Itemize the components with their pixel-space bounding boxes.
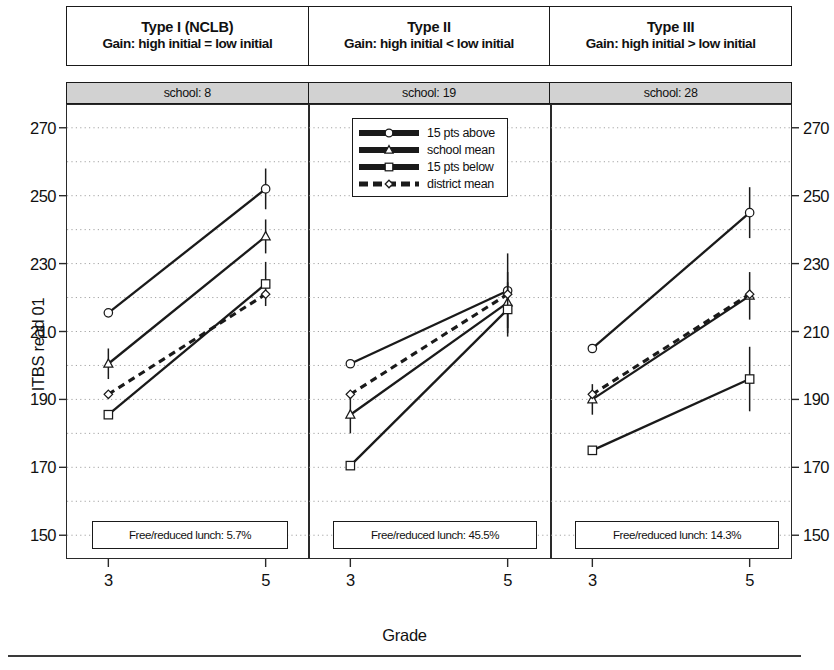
- legend-label-0: 15 pts above: [427, 126, 495, 140]
- legend-entry-1: school mean: [358, 141, 502, 158]
- type-cell-2: Type II Gain: high initial < low initial: [309, 7, 551, 65]
- legend-entry-3: district mean: [358, 175, 502, 192]
- type-cell-3: Type III Gain: high initial > low initia…: [550, 7, 791, 65]
- panel-divider-1: [308, 104, 310, 559]
- legend-entry-2: 15 pts below: [358, 158, 502, 175]
- legend-key-diamond-dashed-icon: [358, 177, 420, 191]
- type-subtitle-2: Gain: high initial < low initial: [344, 36, 514, 53]
- school-label-1: school: 8: [67, 83, 309, 103]
- x-tick-label: 3: [588, 571, 597, 590]
- legend-key-square-icon: [358, 160, 420, 174]
- legend-label-3: district mean: [427, 177, 494, 191]
- y-tick-label-left: 270: [8, 118, 56, 137]
- y-tick-label-left: 150: [8, 526, 56, 545]
- legend-box: 15 pts above school mean 15 pts below di…: [352, 118, 508, 197]
- type-title-2: Type II: [407, 19, 450, 36]
- legend-key-triangle-icon: [358, 143, 420, 157]
- type-title-1: Type I (NCLB): [141, 19, 233, 36]
- type-title-3: Type III: [647, 19, 694, 36]
- x-tick-label: 5: [745, 571, 754, 590]
- type-subtitle-3: Gain: high initial > low initial: [586, 36, 756, 53]
- x-tick-label: 5: [503, 571, 512, 590]
- y-tick-label-right: 250: [803, 186, 834, 205]
- type-cell-1: Type I (NCLB) Gain: high initial = low i…: [67, 7, 309, 65]
- legend-label-1: school mean: [427, 143, 495, 157]
- school-strip-header: school: 8 school: 19 school: 28: [66, 82, 792, 104]
- school-label-2: school: 19: [309, 83, 551, 103]
- note-box-2: Free/reduced lunch: 45.5%: [333, 521, 537, 549]
- y-tick-label-left: 250: [8, 186, 56, 205]
- note-box-1: Free/reduced lunch: 5.7%: [92, 521, 288, 549]
- x-axis-title: Grade: [0, 626, 809, 645]
- type-strip-header: Type I (NCLB) Gain: high initial = low i…: [66, 6, 792, 66]
- school-label-3: school: 28: [550, 83, 791, 103]
- legend-label-2: 15 pts below: [427, 160, 494, 174]
- x-tick-label: 3: [104, 571, 113, 590]
- y-tick-label-right: 230: [803, 254, 834, 273]
- x-tick-label: 5: [261, 571, 270, 590]
- y-tick-label-right: 210: [803, 322, 834, 341]
- x-tick-label: 3: [346, 571, 355, 590]
- y-tick-label-left: 230: [8, 254, 56, 273]
- bottom-divider-rule: [8, 655, 801, 657]
- note-box-3: Free/reduced lunch: 14.3%: [575, 521, 779, 549]
- y-tick-label-right: 270: [803, 118, 834, 137]
- y-tick-label-right: 190: [803, 390, 834, 409]
- y-axis-title: ITBS read 01: [29, 275, 48, 415]
- y-tick-label-right: 170: [803, 458, 834, 477]
- y-tick-label-left: 170: [8, 458, 56, 477]
- type-subtitle-1: Gain: high initial = low initial: [102, 36, 272, 53]
- legend-key-circle-icon: [358, 126, 420, 140]
- y-tick-label-right: 150: [803, 526, 834, 545]
- legend-entry-0: 15 pts above: [358, 124, 502, 141]
- panel-divider-2: [550, 104, 552, 559]
